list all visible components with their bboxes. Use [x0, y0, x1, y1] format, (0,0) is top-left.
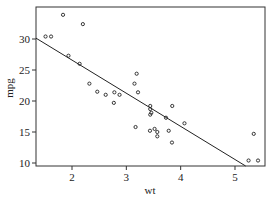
data-point [136, 91, 139, 94]
data-point [61, 13, 64, 16]
data-point [113, 91, 116, 94]
data-point [134, 125, 137, 128]
x-tick-label: 3 [124, 171, 130, 183]
y-tick-label: 15 [19, 126, 31, 138]
data-point [81, 23, 84, 26]
regression-line [36, 38, 246, 166]
data-point [153, 127, 156, 130]
data-point [118, 93, 121, 96]
y-tick-label: 25 [19, 64, 31, 76]
plot-frame [36, 7, 265, 166]
x-tick-label: 5 [232, 171, 238, 183]
data-point [133, 82, 136, 85]
data-point [135, 72, 138, 75]
data-point [167, 129, 170, 132]
data-point [247, 159, 250, 162]
data-point [148, 129, 151, 132]
data-point [49, 35, 52, 38]
data-point [170, 141, 173, 144]
x-tick-label: 2 [69, 171, 75, 183]
x-axis-title: wt [145, 184, 156, 196]
data-point [252, 132, 255, 135]
data-points [44, 13, 260, 162]
y-tick-label: 20 [19, 95, 31, 107]
scatter-chart: 1015202530 2345 wt mpg [0, 0, 270, 202]
data-point [156, 130, 159, 133]
data-point [183, 122, 186, 125]
data-point [88, 82, 91, 85]
y-axis: 1015202530 [19, 33, 36, 169]
y-axis-title: mpg [3, 78, 15, 98]
y-tick-label: 30 [19, 33, 31, 45]
data-point [104, 93, 107, 96]
x-tick-label: 4 [178, 171, 184, 183]
data-point [96, 90, 99, 93]
data-point [44, 35, 47, 38]
x-axis: 2345 [69, 166, 238, 183]
data-point [171, 104, 174, 107]
data-point [112, 101, 115, 104]
data-point [156, 135, 159, 138]
data-point [256, 159, 259, 162]
y-tick-label: 10 [19, 157, 31, 169]
